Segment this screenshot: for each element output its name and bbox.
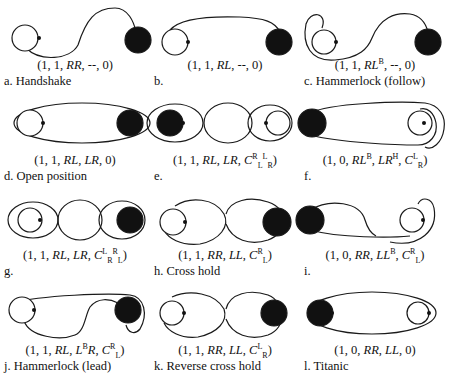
panel-l-titanic: (1, 0, RR, LL, 0) l. Titanic: [300, 285, 450, 380]
arm-loop-middle: [58, 200, 102, 240]
follower-hand: [334, 40, 338, 44]
leader-circle: [266, 29, 292, 55]
notation: (1, 1, RL, LR, 0): [0, 153, 150, 168]
leader-circle: [263, 208, 291, 236]
notation: (1, 1, RL, LR, CLRRL): [0, 248, 150, 263]
caption: d. Open position: [4, 169, 87, 184]
follower-circle: [266, 111, 290, 135]
follower-hand: [264, 121, 268, 125]
notation: (1, 0, RR, LLB, CRL): [300, 248, 450, 263]
follower-hand: [422, 121, 426, 125]
panel-c-hammerlock-follow: (1, 1, RLB, --, 0) c. Hammerlock (follow…: [300, 0, 450, 95]
follower-hand: [37, 36, 41, 40]
panel-a-handshake: (1, 1, RR, --, 0) a. Handshake: [0, 0, 150, 95]
notation: (1, 0, RR, LL, 0): [300, 343, 450, 358]
leader-circle: [117, 207, 143, 233]
leader-circle: [307, 300, 333, 326]
panel-d-open-position: (1, 1, RL, LR, 0) d. Open position: [0, 95, 150, 190]
panel-i: (1, 0, RR, LLB, CRL) i.: [300, 190, 450, 285]
follower-hand: [38, 218, 42, 222]
leader-hand: [181, 121, 185, 125]
notation: (1, 1, RR, --, 0): [0, 58, 150, 73]
leader-circle: [296, 206, 324, 234]
caption: e.: [154, 169, 163, 184]
follower-circle: [9, 297, 35, 323]
caption: b.: [154, 74, 163, 89]
leader-hand: [330, 311, 334, 315]
follower-hand: [421, 218, 425, 222]
caption: l. Titanic: [304, 359, 348, 374]
caption: i.: [304, 264, 311, 279]
caption: k. Reverse cross hold: [154, 359, 261, 374]
follower-hand: [427, 311, 431, 315]
follower-circle: [160, 209, 186, 235]
follower-hand: [183, 220, 187, 224]
notation: (1, 1, RL, --, 0): [150, 58, 300, 73]
panel-h-cross-hold: (1, 1, RR, LL, CRL) h. Cross hold: [150, 190, 300, 285]
follower-circle: [17, 110, 43, 136]
follower-circle: [160, 301, 184, 325]
panel-k-reverse-cross-hold: (1, 1, RR, LL, CLR) k. Reverse cross hol…: [150, 285, 300, 380]
follower-circle: [162, 29, 188, 55]
leader-circle: [115, 297, 141, 323]
panel-e: (1, 1, RL, LR, CRLLR) e.: [150, 95, 300, 190]
leader-circle: [125, 27, 151, 53]
notation: (1, 1, RL, LR, CRLLR): [150, 153, 300, 168]
follower-hand: [186, 40, 190, 44]
panel-b: (1, 1, RL, --, 0) b.: [150, 0, 300, 95]
notation: (1, 0, RLB, LRH, CLR): [300, 153, 450, 168]
caption: a. Handshake: [4, 74, 71, 89]
arm-rope-lower: [24, 300, 118, 338]
panel-g: (1, 1, RL, LR, CLRRL) g.: [0, 190, 150, 285]
leader-circle: [261, 300, 287, 326]
leader-circle: [157, 110, 183, 136]
notation: (1, 1, RR, LL, CRL): [150, 248, 300, 263]
follower-circle: [408, 111, 432, 135]
follower-circle: [407, 302, 429, 324]
follower-circle: [12, 25, 38, 51]
caption: h. Cross hold: [154, 264, 220, 279]
leader-circle: [117, 110, 143, 136]
leader-circle: [298, 109, 326, 137]
follower-circle: [400, 208, 424, 232]
caption: f.: [304, 169, 311, 184]
caption: c. Hammerlock (follow): [304, 74, 425, 89]
panel-j-hammerlock-lead: (1, 1, RL, LBR, CRL) j. Hammerlock (lead…: [0, 285, 150, 380]
notation: (1, 1, RL, LBR, CRL): [0, 343, 150, 358]
notation: (1, 1, RR, LL, CLR): [150, 343, 300, 358]
caption: g.: [4, 264, 13, 279]
follower-hand: [182, 311, 186, 315]
follower-hand: [41, 121, 45, 125]
panel-f: (1, 0, RLB, LRH, CLR) f.: [300, 95, 450, 190]
arm-rope: [26, 8, 136, 57]
arm-rope: [170, 17, 280, 32]
follower-circle: [312, 30, 336, 54]
notation: (1, 1, RLB, --, 0): [300, 58, 450, 73]
caption: j. Hammerlock (lead): [4, 359, 111, 374]
follower-hand: [32, 308, 36, 312]
leader-circle: [415, 29, 441, 55]
arm-loop-middle: [204, 103, 252, 143]
